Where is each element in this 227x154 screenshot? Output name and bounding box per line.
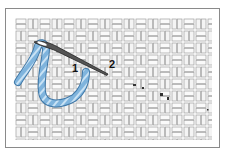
canvas-weave bbox=[0, 0, 227, 154]
point-1-label: 1 bbox=[72, 62, 78, 74]
point-2-label: 2 bbox=[109, 58, 115, 70]
